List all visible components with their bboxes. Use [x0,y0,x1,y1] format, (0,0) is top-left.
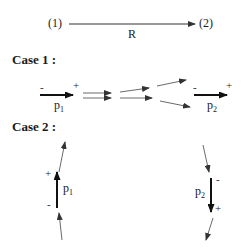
field-arrow [157,80,186,86]
p2-plus-sign: + [215,202,221,214]
p1-minus-sign: - [40,81,44,93]
p1-plus-sign: + [45,167,51,179]
case-1-title: Case 1 : [12,52,56,68]
field-arrow [59,213,62,240]
p2-label: p2 [207,98,217,114]
p1-label: p1 [63,181,73,197]
p1-plus-sign: + [73,79,79,91]
field-arrow [59,142,65,172]
point-2-label: (2) [199,16,213,31]
field-arrow [120,88,149,92]
point-1-label: (1) [48,16,62,31]
field-arrow [206,218,213,240]
p2-minus-sign: - [216,173,220,185]
p2-minus-sign: - [193,81,197,93]
case-2-title: Case 2 : [12,119,56,135]
p1-label: p1 [54,98,64,114]
field-arrow [160,101,190,107]
r-label: R [128,27,136,42]
p1-minus-sign: - [47,198,51,210]
p2-plus-sign: + [226,79,232,91]
p2-label: p2 [195,184,205,200]
field-arrow [203,145,209,172]
